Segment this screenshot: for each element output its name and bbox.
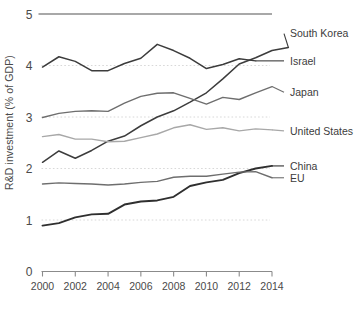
x-tick-label-2006: 2006 bbox=[129, 280, 153, 292]
chart-canvas: R&D investment (% of GDP)012345200020022… bbox=[0, 0, 357, 316]
x-tick-label-2008: 2008 bbox=[162, 280, 186, 292]
x-tick-label-2012: 2012 bbox=[228, 280, 252, 292]
x-tick-label-2014: 2014 bbox=[260, 280, 284, 292]
x-axis: 20002002200420062008201020122014 bbox=[31, 272, 284, 292]
x-tick-label-2004: 2004 bbox=[96, 280, 120, 292]
y-axis-label: R&D investment (% of GDP) bbox=[3, 55, 15, 190]
series-line-china bbox=[43, 166, 273, 226]
y-tick-label-1: 1 bbox=[26, 214, 33, 228]
y-tick-label-5: 5 bbox=[26, 8, 33, 22]
series-line-japan bbox=[43, 87, 273, 118]
series-label-united-states: United States bbox=[290, 125, 353, 137]
x-tick-label-2010: 2010 bbox=[195, 280, 219, 292]
series-group: South KoreaIsraelJapanUnited StatesChina… bbox=[43, 27, 354, 225]
series-line-israel bbox=[43, 44, 256, 70]
series-line-united-states bbox=[43, 125, 273, 142]
leader-line-united-states bbox=[272, 130, 284, 131]
y-tick-label-0: 0 bbox=[26, 265, 33, 279]
series-line-south-korea bbox=[43, 47, 289, 162]
rd-investment-line-chart: R&D investment (% of GDP)012345200020022… bbox=[0, 0, 357, 316]
x-tick-label-2002: 2002 bbox=[64, 280, 88, 292]
leader-line-south-korea bbox=[284, 34, 288, 48]
y-gridlines: 012345 bbox=[26, 8, 272, 280]
series-label-japan: Japan bbox=[290, 86, 319, 98]
series-label-eu: EU bbox=[290, 172, 305, 184]
x-tick-label-2000: 2000 bbox=[31, 280, 55, 292]
series-label-israel: Israel bbox=[290, 55, 316, 67]
y-tick-label-3: 3 bbox=[26, 111, 33, 125]
leader-line-japan bbox=[272, 87, 284, 93]
y-tick-label-2: 2 bbox=[26, 162, 33, 176]
series-label-south-korea: South Korea bbox=[290, 27, 349, 39]
y-tick-label-4: 4 bbox=[26, 59, 33, 73]
series-label-china: China bbox=[290, 160, 318, 172]
